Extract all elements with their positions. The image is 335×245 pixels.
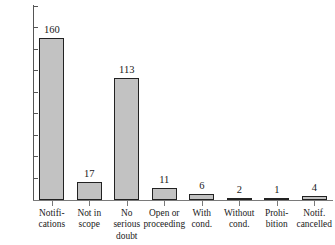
- bar-value-label: 113: [107, 65, 147, 76]
- x-axis-tick: [314, 201, 315, 206]
- bar: [227, 198, 252, 201]
- x-axis-tick: [52, 201, 53, 206]
- x-axis-tick: [202, 201, 203, 206]
- bar-value-label: 1: [257, 185, 297, 196]
- x-axis-tick: [277, 201, 278, 206]
- bar-value-label: 11: [144, 175, 184, 186]
- bar: [77, 182, 102, 200]
- bar: [302, 196, 327, 200]
- bar-value-label: 6: [182, 181, 222, 192]
- x-axis-category-label: Notif.cancelled: [292, 208, 335, 231]
- x-axis-tick: [127, 201, 128, 206]
- bar: [152, 188, 177, 200]
- bar: [189, 194, 214, 200]
- x-axis-category-label-line: Notif.: [292, 208, 335, 219]
- bar: [39, 38, 64, 200]
- x-axis-tick: [89, 201, 90, 206]
- x-axis-tick: [239, 201, 240, 206]
- x-axis-category-label-line: cancelled: [292, 219, 335, 230]
- bar-value-label: 17: [69, 169, 109, 180]
- bar: [114, 78, 139, 200]
- bar-value-label: 160: [32, 25, 72, 36]
- bar-value-label: 2: [219, 185, 259, 196]
- x-axis-tick: [164, 201, 165, 206]
- bar-value-label: 4: [294, 183, 334, 194]
- bar-chart: 020406080100120140160180 160Notifi-catio…: [0, 0, 335, 245]
- bar: [264, 198, 289, 201]
- x-axis-category-label-line: doubt: [104, 231, 150, 242]
- x-axis-line: [33, 200, 333, 201]
